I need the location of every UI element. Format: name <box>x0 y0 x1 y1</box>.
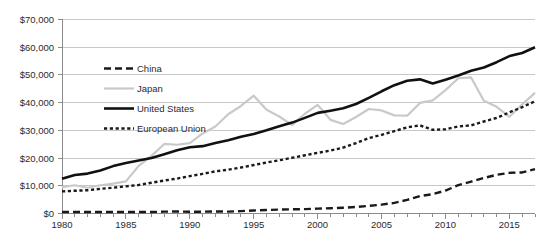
x-tick-label-1990: 1990 <box>179 219 200 230</box>
x-tick-label-1995: 1995 <box>243 219 264 230</box>
y-tick-label-0: $0 <box>43 208 54 219</box>
chart-page: $70,000 $60,000 $50,000 $40,000 $30,000 … <box>0 0 546 251</box>
legend-label-china: China <box>137 63 163 74</box>
y-tick-label-40000: $40,000 <box>20 97 54 108</box>
x-tick-label-2010: 2010 <box>435 219 456 230</box>
legend-item-japan[interactable]: Japan <box>104 83 163 94</box>
legend-label-japan: Japan <box>137 83 163 94</box>
legend-item-united-states[interactable]: United States <box>104 103 194 114</box>
y-tick-label-30000: $30,000 <box>20 125 54 136</box>
legend-item-china[interactable]: China <box>104 63 163 74</box>
x-tick-marks <box>62 214 535 219</box>
legend-label-united-states: United States <box>137 103 194 114</box>
x-tick-label-1980: 1980 <box>51 219 72 230</box>
y-axis-labels: $70,000 $60,000 $50,000 $40,000 $30,000 … <box>20 14 54 219</box>
y-tick-label-10000: $10,000 <box>20 180 54 191</box>
y-tick-label-70000: $70,000 <box>20 14 54 25</box>
x-axis-labels: 1980 1985 1990 1995 2000 2005 2010 2015 <box>51 219 519 230</box>
series-line-united-states <box>62 47 535 179</box>
y-tick-marks <box>58 20 62 214</box>
series-line-china <box>62 169 535 212</box>
series-line-japan <box>62 77 535 187</box>
legend-label-european-union: European Union <box>137 123 206 134</box>
y-tick-label-60000: $60,000 <box>20 42 54 53</box>
series-line-european-union <box>62 101 535 191</box>
x-tick-label-2000: 2000 <box>307 219 328 230</box>
series-group <box>62 47 535 212</box>
chart-legend: China Japan United States European Union <box>104 63 206 134</box>
x-tick-label-2015: 2015 <box>499 219 520 230</box>
y-tick-label-20000: $20,000 <box>20 153 54 164</box>
gdp-per-capita-line-chart: $70,000 $60,000 $50,000 $40,000 $30,000 … <box>0 0 546 251</box>
y-tick-label-50000: $50,000 <box>20 69 54 80</box>
legend-item-european-union[interactable]: European Union <box>104 123 206 134</box>
x-tick-label-1985: 1985 <box>115 219 136 230</box>
x-tick-label-2005: 2005 <box>371 219 392 230</box>
